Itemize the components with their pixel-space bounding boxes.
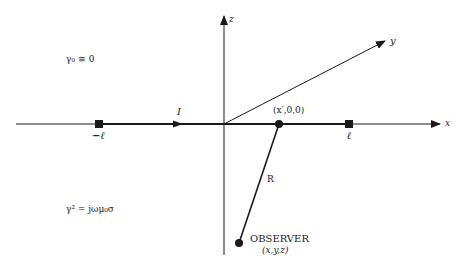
wire-end-left-marker bbox=[95, 120, 103, 128]
current-direction-arrow bbox=[173, 121, 183, 128]
lower-medium-label: γ² = jωμ₀σ bbox=[66, 205, 114, 214]
y-axis-label: y bbox=[390, 36, 396, 46]
observer-label: OBSERVER bbox=[250, 234, 309, 244]
wire-end-right-marker bbox=[345, 120, 353, 128]
observer-coords-label: (x,y,z) bbox=[262, 246, 288, 255]
distance-label: R bbox=[267, 175, 274, 184]
z-axis-label: z bbox=[229, 15, 234, 24]
source-point-label: (x′,0,0) bbox=[273, 106, 304, 115]
observer-point-marker bbox=[235, 239, 243, 247]
source-point-marker bbox=[275, 120, 283, 128]
wire-left-end-label: −ℓ bbox=[92, 131, 105, 141]
upper-medium-label: γ₀ ≅ 0 bbox=[66, 55, 94, 64]
current-label: I bbox=[177, 107, 181, 117]
y-axis bbox=[224, 41, 385, 124]
wire-right-end-label: ℓ bbox=[347, 131, 351, 141]
x-axis-label: x bbox=[445, 119, 450, 128]
